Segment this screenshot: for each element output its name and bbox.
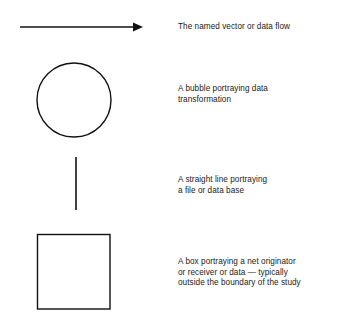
- file-description-line: A straight line portraying: [178, 175, 267, 186]
- file-description: A straight line portraying a file or dat…: [178, 175, 267, 196]
- vector-description-line: The named vector or data flow: [178, 22, 290, 33]
- arrow-icon: [20, 23, 143, 32]
- bubble-description: A bubble portraying data transformation: [178, 84, 268, 105]
- box-description-line: A box portraying a net originator: [178, 257, 301, 268]
- box-description-line: or receiver or data — typically: [178, 268, 301, 279]
- bubble-description-line: transformation: [178, 95, 268, 106]
- bubble-circle-icon: [37, 63, 111, 137]
- box-description: A box portraying a net originator or rec…: [178, 257, 301, 289]
- bubble-description-line: A bubble portraying data: [178, 84, 268, 95]
- terminator-box-icon: [38, 235, 111, 310]
- file-description-line: a file or data base: [178, 186, 267, 197]
- vector-description: The named vector or data flow: [178, 22, 290, 33]
- box-description-line: outside the boundary of the study: [178, 278, 301, 289]
